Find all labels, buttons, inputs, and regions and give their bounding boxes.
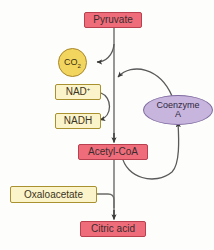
node-nadh-label: NADH [64, 116, 92, 126]
node-acetyl-coa[interactable]: Acetyl-CoA [78, 144, 148, 160]
node-co2-label: CO2 [64, 58, 81, 67]
node-citric-acid[interactable]: Citric acid [80, 221, 146, 237]
node-pyruvate-label: Pyruvate [93, 15, 132, 25]
pathway-edges [0, 0, 214, 250]
node-coenzyme-a[interactable]: Coenzyme A [143, 95, 213, 125]
node-acetyl-coa-label: Acetyl-CoA [88, 147, 138, 157]
node-oxaloacetate-label: Oxaloacetate [24, 190, 83, 200]
node-nad-plus[interactable]: NAD+ [55, 84, 101, 100]
edge-pyruvate-to-co2 [97, 44, 114, 62]
node-nadh[interactable]: NADH [55, 113, 101, 129]
node-coenzyme-a-label-line2: A [175, 110, 181, 119]
node-citric-acid-label: Citric acid [91, 224, 135, 234]
node-nad-plus-superscript: + [87, 86, 91, 92]
node-pyruvate[interactable]: Pyruvate [84, 12, 142, 28]
node-oxaloacetate[interactable]: Oxaloacetate [10, 186, 97, 203]
edge-oxaloacetate-to-citricacid [97, 194, 114, 208]
node-co2-subscript: 2 [78, 63, 81, 69]
node-nad-plus-label: NAD+ [66, 87, 91, 97]
edge-nadplus-to-nadh [100, 93, 110, 120]
edge-coenzymea-to-stem [118, 69, 172, 96]
node-co2[interactable]: CO2 [58, 48, 87, 77]
pathway-diagram: Pyruvate CO2 NAD+ NADH Coenzyme A Acetyl… [0, 0, 214, 250]
